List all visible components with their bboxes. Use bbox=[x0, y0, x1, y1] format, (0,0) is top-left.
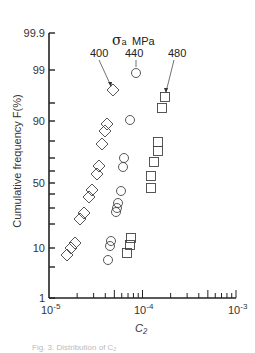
axes bbox=[49, 33, 236, 298]
leader-line-480 bbox=[166, 60, 174, 92]
diamond-marker-400 bbox=[101, 118, 113, 130]
square-marker-480 bbox=[158, 104, 167, 113]
diamond-marker-400 bbox=[96, 138, 108, 150]
circle-marker-440 bbox=[117, 187, 126, 196]
diamond-marker-400 bbox=[107, 84, 119, 96]
circle-marker-440 bbox=[126, 116, 135, 125]
legend-title: σa bbox=[112, 32, 128, 48]
arrowhead-400 bbox=[108, 82, 112, 87]
circle-marker-440 bbox=[132, 69, 141, 78]
y-tick-label: 50 bbox=[33, 177, 45, 189]
circle-marker-440 bbox=[120, 154, 129, 163]
square-marker-480 bbox=[154, 138, 163, 147]
figure-caption: Fig. 3. Distribution of C₂ bbox=[32, 343, 116, 352]
square-marker-480 bbox=[161, 93, 170, 102]
square-marker-480 bbox=[147, 172, 156, 181]
y-tick-label: 99 bbox=[33, 64, 45, 76]
circle-marker-440 bbox=[104, 256, 113, 265]
diamond-marker-400 bbox=[61, 249, 73, 261]
series-label-480: 480 bbox=[168, 47, 186, 59]
legend: σa MPa 400 440 480 bbox=[90, 32, 186, 93]
y-tick-label: 10 bbox=[33, 242, 45, 254]
series-label-400: 400 bbox=[90, 47, 108, 59]
x-tick-label: 10-3 bbox=[228, 302, 248, 316]
diamond-marker-400 bbox=[65, 242, 77, 254]
diamond-marker-400 bbox=[69, 237, 81, 249]
legend-unit: MPa bbox=[132, 35, 156, 47]
x-tick-label: 10-4 bbox=[134, 302, 154, 316]
circle-marker-440 bbox=[106, 242, 115, 251]
x-tick-label: 10-5 bbox=[41, 302, 61, 316]
y-tick-label: 90 bbox=[33, 115, 45, 127]
y-tick-label: 1 bbox=[39, 292, 45, 304]
x-ticks: 10-510-410-3 bbox=[41, 290, 248, 316]
circle-marker-440 bbox=[119, 163, 128, 172]
square-marker-480 bbox=[147, 184, 156, 193]
y-axis-label: Cumulative frequency F(%) bbox=[11, 86, 23, 236]
series-label-440: 440 bbox=[125, 47, 143, 59]
square-marker-480 bbox=[150, 158, 159, 167]
x-axis-label: C₂ bbox=[135, 322, 147, 334]
y-tick-label: 99.9 bbox=[24, 27, 45, 39]
square-marker-480 bbox=[154, 147, 163, 156]
y-ticks: 99.9999050101 bbox=[24, 27, 55, 304]
cumulative-frequency-chart: 99.9999050101 10-510-410-3 σa MPa 400 44… bbox=[0, 0, 255, 353]
data-markers bbox=[61, 69, 170, 265]
diamond-marker-400 bbox=[99, 125, 111, 137]
